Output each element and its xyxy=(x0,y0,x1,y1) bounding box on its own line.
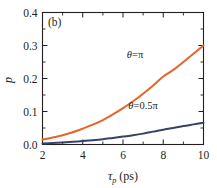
series-label-1: θ=0.5π xyxy=(128,100,158,111)
y-tick-label: 0.2 xyxy=(23,73,38,85)
x-tick-label: 4 xyxy=(80,149,86,161)
x-tick-label: 8 xyxy=(160,149,166,161)
x-tick-label: 2 xyxy=(40,149,46,161)
y-tick-label: 0.1 xyxy=(23,106,38,118)
x-axis-title-unit: (ps) xyxy=(116,169,138,183)
series-label-0: θ=π xyxy=(127,49,144,60)
y-tick-label: 0.3 xyxy=(23,40,38,52)
x-tick-label: 6 xyxy=(120,149,126,161)
line-chart: 246810 0.00.10.20.30.4 θ=πθ=0.5π (b) p τ… xyxy=(0,0,217,188)
panel-label: (b) xyxy=(48,16,62,29)
y-axis-title: p xyxy=(1,77,15,84)
figure-panel-b: 246810 0.00.10.20.30.4 θ=πθ=0.5π (b) p τ… xyxy=(0,0,217,188)
x-tick-label: 10 xyxy=(198,149,210,161)
y-tick-label: 0.4 xyxy=(23,7,38,19)
chart-background xyxy=(0,0,217,188)
y-tick-label: 0.0 xyxy=(23,139,38,151)
